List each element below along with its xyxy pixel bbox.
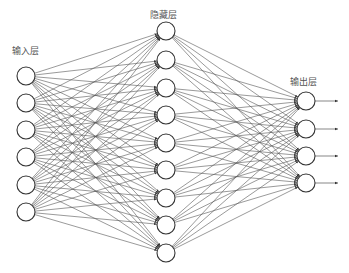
connection-edge xyxy=(174,119,298,179)
connection-edge xyxy=(174,160,298,221)
connection-edge xyxy=(175,91,298,127)
input-neuron-4 xyxy=(17,148,35,166)
connection-edge xyxy=(32,110,160,247)
input-neuron-6 xyxy=(17,203,35,221)
connection-edge xyxy=(33,37,160,151)
hidden-layer-label: 隐藏层 xyxy=(150,10,177,20)
output-neuron-4 xyxy=(297,174,315,192)
output-layer-label: 输出层 xyxy=(290,77,317,87)
output-neuron-1 xyxy=(297,92,315,110)
hidden-neuron-7 xyxy=(157,189,175,207)
connection-edge xyxy=(175,102,297,114)
connection-edge xyxy=(175,171,297,182)
neuron-nodes xyxy=(17,22,315,262)
connection-edge xyxy=(173,107,300,219)
input-neuron-5 xyxy=(17,176,35,194)
connection-edge xyxy=(33,82,159,192)
hidden-neuron-6 xyxy=(157,161,175,179)
hidden-neuron-5 xyxy=(157,134,175,152)
hidden-neuron-2 xyxy=(157,51,175,69)
connection-edge xyxy=(173,106,298,193)
connection-edge xyxy=(35,89,157,102)
connection-edge xyxy=(174,187,298,249)
connection-edge xyxy=(33,94,160,206)
input-neuron-3 xyxy=(17,121,35,139)
connection-edge xyxy=(174,35,298,97)
hidden-neuron-8 xyxy=(157,216,175,234)
connection-edge xyxy=(173,36,298,124)
hidden-neuron-1 xyxy=(157,22,175,40)
connection-edge xyxy=(173,161,298,248)
hidden-neuron-4 xyxy=(157,106,175,124)
connection-edge xyxy=(175,130,297,142)
connection-edge xyxy=(32,38,161,205)
output-neuron-3 xyxy=(297,147,315,165)
output-neuron-2 xyxy=(297,120,315,138)
connection-edge xyxy=(35,199,157,211)
connection-edge xyxy=(172,38,300,177)
input-neuron-2 xyxy=(17,94,35,112)
connection-edge xyxy=(175,104,298,141)
output-arrows xyxy=(315,101,338,183)
input-neuron-1 xyxy=(17,67,35,85)
connection-edge xyxy=(175,63,298,99)
connection-edge xyxy=(33,93,158,180)
input-layer-label: 输入层 xyxy=(12,46,39,56)
connection-edge xyxy=(174,133,298,194)
network-canvas xyxy=(0,0,349,273)
connection-edge xyxy=(33,108,158,193)
connection-edge xyxy=(35,61,157,75)
connection-edge xyxy=(174,105,298,166)
hidden-neuron-3 xyxy=(157,79,175,97)
neural-network-diagram: 输入层 隐藏层 输出层 xyxy=(0,0,349,273)
hidden-neuron-9 xyxy=(157,244,175,262)
connection-edge xyxy=(172,108,300,247)
connection-edge xyxy=(35,77,157,87)
connection-edge xyxy=(175,89,297,100)
connection-edge xyxy=(35,215,158,251)
